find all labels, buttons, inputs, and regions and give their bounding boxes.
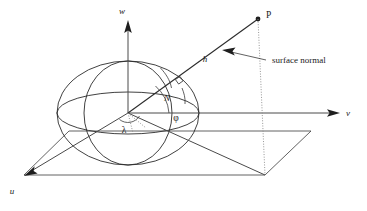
ellipsoid-diagram-svg: w v u P h N φ λ surface normal bbox=[0, 0, 367, 211]
u-axis-arrowhead-icon bbox=[24, 166, 38, 176]
u-axis-label: u bbox=[10, 186, 15, 196]
longitude-reference-dotted bbox=[128, 113, 133, 133]
ground-plane-outline bbox=[24, 131, 311, 175]
diagram-canvas: w v u P h N φ λ surface normal bbox=[0, 0, 367, 211]
ground-plane bbox=[24, 131, 311, 175]
longitude-reference-dotted-2 bbox=[128, 113, 146, 128]
point-p-label: P bbox=[266, 10, 271, 20]
longitude-label: λ bbox=[122, 125, 127, 135]
annotation-arrow-icon bbox=[222, 48, 236, 56]
prime-vertical-label: N bbox=[163, 93, 171, 103]
p-projection-dotted-line bbox=[258, 19, 265, 175]
surface-normal-ray bbox=[128, 17, 260, 113]
u-axis-negative-line bbox=[128, 113, 265, 175]
latitude-label: φ bbox=[173, 113, 179, 123]
height-label: h bbox=[203, 54, 208, 64]
u-axis-line bbox=[33, 113, 128, 170]
v-axis-label: v bbox=[346, 108, 350, 118]
w-axis-label: w bbox=[119, 6, 125, 16]
surface-normal-leader-line bbox=[231, 52, 266, 60]
normal-tick-lower bbox=[182, 88, 185, 104]
coordinate-axes bbox=[24, 20, 340, 176]
surface-normal-label: surface normal bbox=[272, 55, 326, 65]
